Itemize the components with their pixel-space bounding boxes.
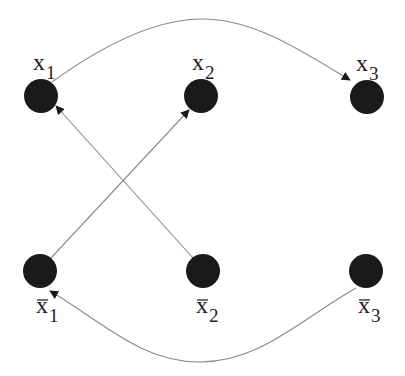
- node-x3bar[interactable]: [349, 254, 383, 288]
- svg-text:1: 1: [46, 62, 56, 83]
- svg-text:x: x: [192, 49, 204, 75]
- svg-text:x: x: [356, 50, 368, 76]
- svg-text:x: x: [33, 49, 45, 75]
- edge-x2bar-to-x1: [56, 106, 193, 258]
- graph-diagram: x 1 x 2 x 3 x 1 x 2 x 3: [0, 0, 405, 376]
- svg-text:2: 2: [209, 305, 219, 326]
- node-x1bar[interactable]: [23, 254, 57, 288]
- svg-text:2: 2: [205, 62, 215, 83]
- label-x1bar: x 1: [36, 292, 59, 326]
- svg-text:1: 1: [49, 305, 59, 326]
- svg-text:x: x: [358, 292, 370, 318]
- label-x1: x 1: [33, 49, 56, 83]
- svg-text:3: 3: [369, 63, 379, 84]
- node-x1[interactable]: [24, 79, 58, 113]
- graph-svg: x 1 x 2 x 3 x 1 x 2 x 3: [0, 0, 405, 376]
- svg-text:x: x: [36, 292, 48, 318]
- svg-text:x: x: [196, 292, 208, 318]
- node-x2bar[interactable]: [186, 254, 220, 288]
- node-x2[interactable]: [184, 79, 218, 113]
- label-x2bar: x 2: [196, 292, 219, 326]
- svg-text:3: 3: [371, 305, 381, 326]
- edge-x1bar-to-x2: [50, 110, 189, 259]
- label-x3bar: x 3: [358, 292, 381, 326]
- label-x2: x 2: [192, 49, 215, 83]
- label-x3: x 3: [356, 50, 379, 84]
- node-x3[interactable]: [350, 80, 384, 114]
